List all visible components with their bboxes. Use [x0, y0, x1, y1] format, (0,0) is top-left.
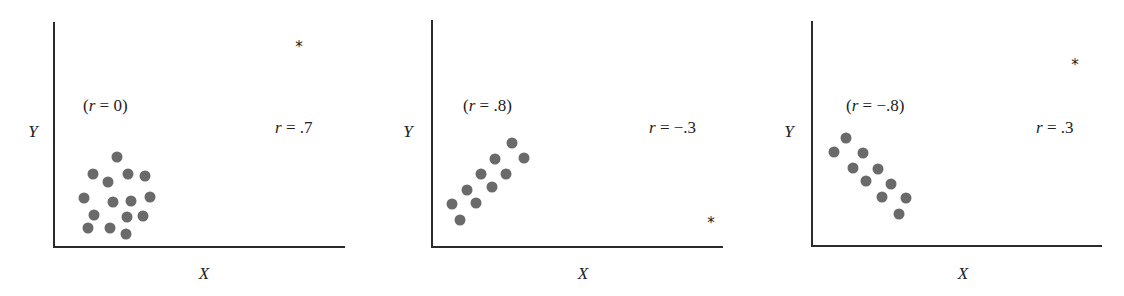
- data-point: [140, 171, 151, 182]
- cluster-correlation-label: (r = 0): [83, 96, 128, 115]
- data-point: [89, 210, 100, 221]
- y-axis-label: Y: [403, 122, 414, 141]
- data-point: [88, 169, 99, 180]
- cluster-correlation-label: (r = −.8): [846, 96, 904, 115]
- data-point: [108, 197, 119, 208]
- data-point: [487, 182, 498, 193]
- data-point: [490, 154, 501, 165]
- y-axis-label: Y: [784, 122, 795, 141]
- data-point: [122, 212, 133, 223]
- data-point: [83, 223, 94, 234]
- data-point: [894, 209, 905, 220]
- data-points: [829, 133, 912, 220]
- data-point: [471, 198, 482, 209]
- outlier-correlation-label: r = −.3: [649, 118, 696, 137]
- data-point: [145, 192, 156, 203]
- data-point: [507, 138, 518, 149]
- y-axis-label: Y: [28, 122, 39, 141]
- data-point: [861, 176, 872, 187]
- data-point: [121, 229, 132, 240]
- outlier-star-icon: *: [295, 38, 303, 56]
- data-point: [858, 148, 869, 159]
- data-point: [447, 199, 458, 210]
- data-point: [886, 179, 897, 190]
- data-points: [79, 152, 156, 240]
- panel-1: YX(r = 0)r = .7*: [28, 22, 345, 283]
- data-point: [105, 223, 116, 234]
- data-point: [79, 193, 90, 204]
- data-point: [901, 193, 912, 204]
- data-point: [138, 211, 149, 222]
- data-point: [519, 153, 530, 164]
- x-axis-label: X: [957, 264, 969, 283]
- data-point: [829, 147, 840, 158]
- data-point: [877, 192, 888, 203]
- data-point: [476, 169, 487, 180]
- data-point: [873, 164, 884, 175]
- data-point: [455, 215, 466, 226]
- x-axis-label: X: [198, 264, 210, 283]
- outlier-correlation-label: r = .3: [1036, 118, 1073, 137]
- outlier-correlation-label: r = .7: [275, 118, 313, 137]
- correlation-scatter-figure: YX(r = 0)r = .7* YX(r = .8)r = −.3* YX(r…: [0, 0, 1124, 296]
- data-point: [462, 185, 473, 196]
- data-point: [841, 133, 852, 144]
- panel-2: YX(r = .8)r = −.3*: [403, 20, 723, 283]
- data-point: [848, 163, 859, 174]
- cluster-correlation-label: (r = .8): [463, 96, 512, 115]
- data-point: [103, 177, 114, 188]
- data-point: [501, 169, 512, 180]
- x-axis-label: X: [577, 264, 589, 283]
- outlier-star-icon: *: [1071, 56, 1079, 74]
- panel-3: YX(r = −.8)r = .3*: [784, 21, 1102, 283]
- data-point: [126, 196, 137, 207]
- data-point: [123, 169, 134, 180]
- data-points: [447, 138, 530, 226]
- data-point: [112, 152, 123, 163]
- outlier-star-icon: *: [707, 214, 715, 232]
